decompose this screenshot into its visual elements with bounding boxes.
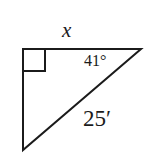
triangle-drawing [0, 0, 151, 162]
angle-label-41-degrees: 41° [84, 53, 106, 69]
right-triangle-outline [23, 49, 141, 150]
right-angle-marker-icon [23, 49, 45, 71]
geometry-diagram: x 41° 25′ [0, 0, 151, 162]
side-label-x: x [62, 20, 71, 41]
hypotenuse-label-25-feet: 25′ [83, 107, 111, 130]
